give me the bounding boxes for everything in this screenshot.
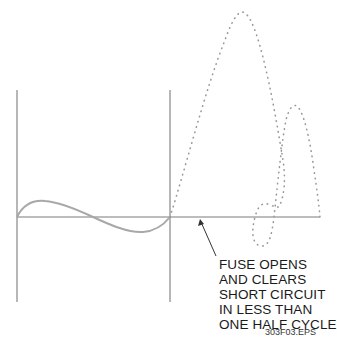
fuse-annotation: FUSE OPENS AND CLEARS SHORT CIRCUIT IN L… bbox=[219, 257, 337, 332]
normal-current-wave bbox=[17, 201, 170, 232]
annotation-line-2: AND CLEARS bbox=[219, 272, 337, 287]
annotation-arrow-head-icon bbox=[198, 219, 204, 226]
annotation-line-1: FUSE OPENS bbox=[219, 257, 337, 272]
annotation-line-3: SHORT CIRCUIT bbox=[219, 287, 337, 302]
figure-caption: 303F03.EPS bbox=[265, 327, 316, 337]
annotation-arrow-line bbox=[201, 222, 216, 256]
prospective-fault-current-wave bbox=[170, 12, 320, 246]
annotation-line-4: IN LESS THAN bbox=[219, 302, 337, 317]
